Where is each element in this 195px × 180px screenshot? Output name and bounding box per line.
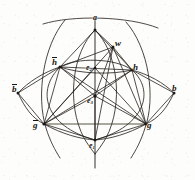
meridian-inner-left [73, 30, 95, 154]
point-label-p-e1: e1 [89, 142, 95, 151]
label-subscript: 2 [90, 67, 92, 72]
vertex-gbar [42, 122, 45, 125]
figure-canvas: awhhe2bbe3gge1 [0, 0, 195, 180]
chord-g-e3 [95, 96, 146, 124]
point-label-p-b: b [172, 84, 177, 93]
point-label-p-gbar: g [33, 120, 38, 130]
point-label-p-h: h [133, 63, 138, 72]
point-label-p-hbar: h [52, 57, 57, 67]
label-glyph: b [12, 84, 17, 94]
chord-gbar-e1 [44, 124, 95, 140]
vertex-e2 [94, 67, 97, 70]
label-glyph: h [133, 62, 138, 72]
label-glyph: b [172, 83, 177, 93]
chord-g-e1 [95, 124, 146, 140]
label-subscript: 3 [91, 100, 93, 105]
point-label-p-top: a [93, 14, 97, 22]
vertex-e3 [93, 94, 96, 97]
point-label-p-g: g [147, 121, 152, 130]
chord-w-g [113, 47, 146, 124]
label-subscript: 1 [93, 145, 95, 150]
chord-a-w [95, 30, 113, 47]
vertex-hbar [58, 65, 61, 68]
label-glyph: g [147, 120, 152, 130]
point-label-p-e3: e3 [87, 97, 93, 106]
point-label-p-w: w [115, 39, 121, 48]
meridian-left [42, 20, 65, 158]
label-glyph: w [115, 38, 121, 48]
chord-h-b [132, 70, 174, 93]
label-glyph: g [33, 120, 38, 130]
label-glyph: a [93, 13, 97, 22]
vertex-a [94, 29, 97, 32]
point-label-p-bbar: b [12, 84, 17, 94]
arc-group [18, 18, 174, 158]
chord-w-h [113, 47, 132, 70]
point-label-p-e2: e2 [86, 64, 92, 73]
projection-diagram-svg [0, 0, 195, 180]
label-glyph: h [52, 57, 57, 67]
meridian-right [126, 22, 150, 158]
chord-bbar-gbar [18, 93, 44, 124]
